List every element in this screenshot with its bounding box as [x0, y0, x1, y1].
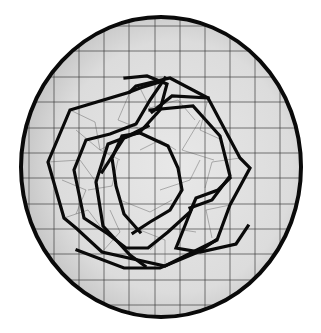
knot-diagram — [0, 0, 321, 333]
